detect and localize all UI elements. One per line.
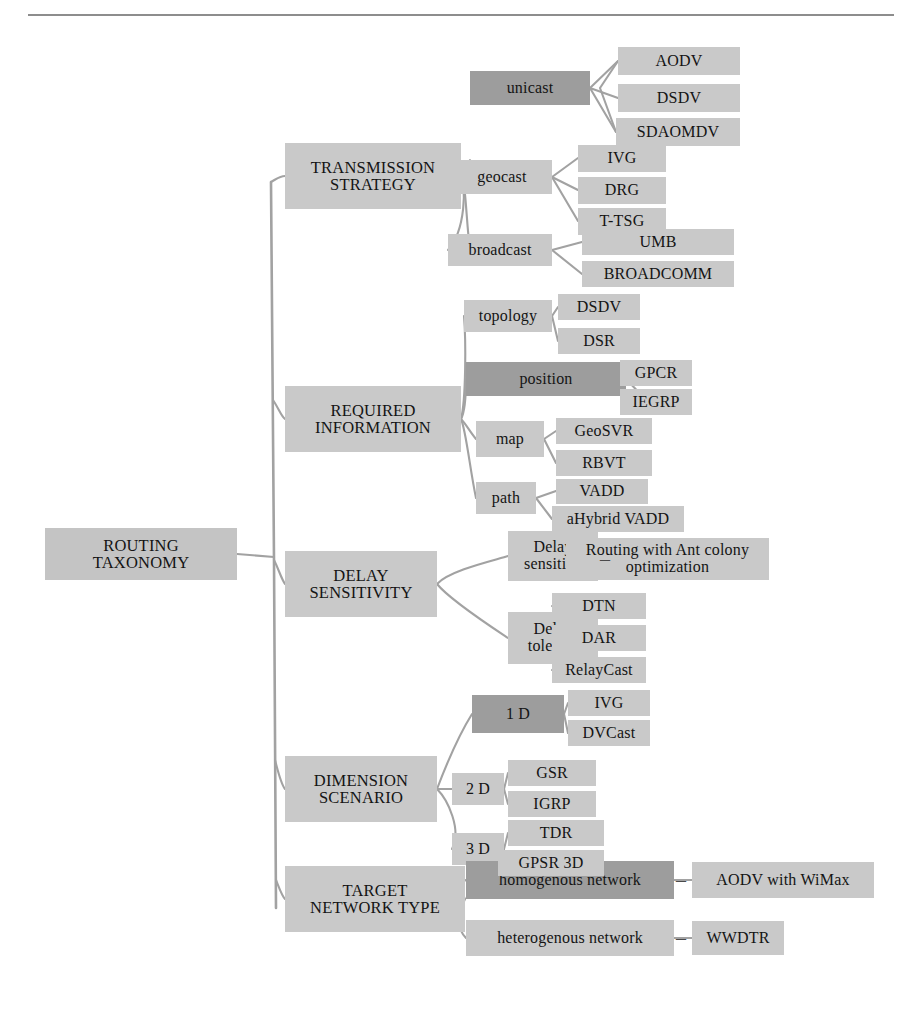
- protocol-relaycast[interactable]: RelayCast: [552, 657, 646, 683]
- subcategory-geocast[interactable]: geocast: [452, 160, 552, 194]
- subcategory-position[interactable]: position: [466, 362, 626, 396]
- category-dimension-scenario[interactable]: DIMENSION SCENARIO: [285, 756, 437, 822]
- subcategory-unicast[interactable]: unicast: [470, 71, 590, 105]
- protocol-drg[interactable]: DRG: [578, 177, 666, 204]
- category-transmission-strategy[interactable]: TRANSMISSION STRATEGY: [285, 143, 461, 209]
- protocol-dsdv[interactable]: DSDV: [618, 84, 740, 112]
- protocol-ivg-1d[interactable]: IVG: [568, 690, 650, 716]
- protocol-wwdtr[interactable]: WWDTR: [692, 921, 784, 955]
- category-required-information[interactable]: REQUIRED INFORMATION: [285, 386, 461, 452]
- protocol-routing-with-ant-colony-optimization[interactable]: Routing with Ant colony optimization: [566, 538, 769, 580]
- protocol-rbvt[interactable]: RBVT: [556, 450, 652, 476]
- protocol-dsdv-topology[interactable]: DSDV: [558, 294, 640, 320]
- protocol-dar[interactable]: DAR: [552, 625, 646, 651]
- protocol-geosvr[interactable]: GeoSVR: [556, 418, 652, 444]
- dash-connector-delay-sensitive: –: [600, 548, 610, 571]
- top-divider-rule: [28, 14, 894, 16]
- dash-connector-heterogenous: –: [676, 927, 686, 950]
- category-target-network-type[interactable]: TARGET NETWORK TYPE: [285, 866, 465, 932]
- protocol-gpcr[interactable]: GPCR: [620, 360, 692, 386]
- protocol-sdaomdv[interactable]: SDAOMDV: [616, 118, 740, 146]
- protocol-ivg[interactable]: IVG: [578, 145, 666, 172]
- subcategory-map[interactable]: map: [476, 421, 544, 457]
- subcategory-2d[interactable]: 2 D: [452, 773, 504, 805]
- taxonomy-diagram: ROUTING TAXONOMY TRANSMISSION STRATEGY R…: [0, 0, 918, 1015]
- subcategory-1d[interactable]: 1 D: [472, 695, 564, 733]
- protocol-dvcast[interactable]: DVCast: [568, 720, 650, 746]
- protocol-tdr[interactable]: TDR: [508, 820, 604, 846]
- protocol-vadd[interactable]: VADD: [556, 479, 648, 504]
- protocol-iegrp[interactable]: IEGRP: [620, 389, 692, 415]
- protocol-dsr[interactable]: DSR: [558, 328, 640, 354]
- subcategory-topology[interactable]: topology: [464, 300, 552, 332]
- protocol-gpsr-3d[interactable]: GPSR 3D: [498, 850, 604, 876]
- subcategory-broadcast[interactable]: broadcast: [448, 234, 552, 266]
- dash-connector-homogenous: –: [676, 869, 686, 892]
- protocol-broadcomm[interactable]: BROADCOMM: [582, 261, 734, 287]
- category-delay-sensitivity[interactable]: DELAY SENSITIVITY: [285, 551, 437, 617]
- protocol-igrp[interactable]: IGRP: [508, 791, 596, 817]
- protocol-ahybrid-vadd[interactable]: aHybrid VADD: [552, 506, 684, 532]
- root-node-routing-taxonomy[interactable]: ROUTING TAXONOMY: [45, 528, 237, 580]
- protocol-aodv-with-wimax[interactable]: AODV with WiMax: [692, 862, 874, 898]
- protocol-dtn[interactable]: DTN: [552, 593, 646, 619]
- protocol-aodv[interactable]: AODV: [618, 47, 740, 75]
- protocol-umb[interactable]: UMB: [582, 229, 734, 255]
- subcategory-path[interactable]: path: [476, 482, 536, 514]
- subcategory-heterogenous-network[interactable]: heterogenous network: [466, 920, 674, 956]
- protocol-gsr[interactable]: GSR: [508, 760, 596, 786]
